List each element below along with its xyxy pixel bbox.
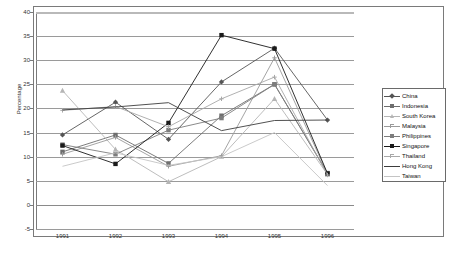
- x-tick-label: 1992: [109, 233, 122, 239]
- legend-marker-icon: [384, 161, 400, 171]
- legend-marker-icon: [384, 151, 400, 161]
- legend-marker-icon: [384, 91, 400, 101]
- x-tick-label: 1995: [268, 233, 281, 239]
- series-marker: [219, 97, 223, 101]
- series-line-south-korea: [63, 91, 328, 182]
- y-tick-label: 10: [23, 154, 30, 160]
- legend-item-label: China: [400, 91, 418, 101]
- legend-marker-icon: [384, 101, 400, 111]
- x-tick-label: 1991: [56, 233, 69, 239]
- legend-item-indonesia[interactable]: Indonesia: [384, 101, 443, 111]
- y-tick-label: 30: [23, 57, 30, 63]
- chart-root: Percentage 4035302520151050-5 1991199219…: [0, 0, 450, 272]
- series-marker: [272, 82, 276, 86]
- series-marker: [272, 46, 276, 50]
- legend-marker-icon: [384, 131, 400, 141]
- x-tick-label: 1996: [321, 233, 334, 239]
- legend-item-singapore[interactable]: Singapore: [384, 141, 443, 151]
- series-marker: [60, 108, 64, 112]
- y-tick-label: 25: [23, 81, 30, 87]
- legend-item-thailand[interactable]: Thailand: [384, 151, 443, 161]
- legend-item-label: Indonesia: [400, 101, 428, 111]
- series-line-singapore: [63, 35, 328, 173]
- series-marker: [113, 162, 117, 166]
- x-tick-label: 1993: [162, 233, 175, 239]
- y-tick-label: 15: [23, 130, 30, 136]
- legend-item-south-korea[interactable]: South Korea: [384, 111, 443, 121]
- legend-item-label: Hong Kong: [400, 161, 432, 171]
- y-tick-label: 35: [23, 33, 30, 39]
- series-marker: [219, 116, 223, 120]
- series-marker: [219, 33, 223, 37]
- series-marker: [60, 88, 65, 93]
- legend-item-label: South Korea: [400, 111, 435, 121]
- series-marker: [166, 179, 171, 184]
- legend-item-china[interactable]: China: [384, 91, 443, 101]
- series-marker: [60, 143, 64, 147]
- series-marker: [272, 56, 276, 60]
- legend-item-label: Malaysia: [400, 121, 426, 131]
- legend-marker-icon: [384, 171, 400, 181]
- series-marker: [166, 121, 170, 125]
- legend-item-label: Thailand: [400, 151, 425, 161]
- series-marker: [272, 75, 276, 79]
- series-marker: [113, 100, 118, 105]
- legend-marker-icon: [384, 111, 400, 121]
- legend-item-taiwan[interactable]: Taiwan: [384, 171, 443, 181]
- series-marker: [60, 132, 65, 137]
- series-lines: [36, 12, 354, 229]
- plot-area: [36, 12, 354, 229]
- chart-legend: ChinaIndonesiaSouth KoreaMalaysiaPhilipp…: [382, 88, 446, 182]
- legend-item-malaysia[interactable]: Malaysia: [384, 121, 443, 131]
- x-tick-label: 1994: [215, 233, 228, 239]
- x-axis-tick-labels: 199119921993199419951996: [0, 233, 450, 245]
- series-line-china: [63, 48, 328, 139]
- legend-item-philippines[interactable]: Philippines: [384, 131, 443, 141]
- y-axis-tick-labels: 4035302520151050-5: [0, 12, 34, 229]
- series-marker: [272, 96, 277, 101]
- legend-item-hong-kong[interactable]: Hong Kong: [384, 161, 443, 171]
- legend-item-label: Taiwan: [400, 171, 421, 181]
- y-tick-label: 40: [23, 9, 30, 15]
- legend-item-label: Singapore: [400, 141, 429, 151]
- series-line-philippines: [63, 84, 328, 173]
- legend-marker-icon: [384, 141, 400, 151]
- gridline--5: [36, 229, 354, 230]
- series-line-thailand: [63, 77, 328, 175]
- legend-marker-icon: [384, 121, 400, 131]
- legend-item-label: Philippines: [400, 131, 431, 141]
- y-tick-label: 20: [23, 105, 30, 111]
